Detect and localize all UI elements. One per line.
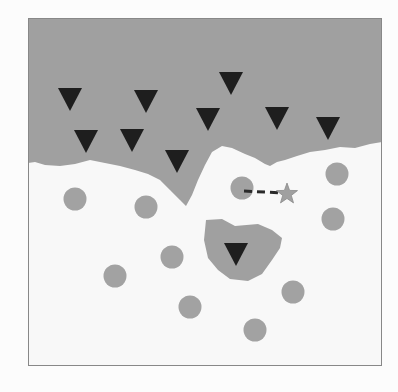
circle-marker	[282, 281, 305, 304]
circle-marker	[104, 265, 127, 288]
circle-marker	[135, 196, 158, 219]
decision-boundary-diagram	[0, 0, 398, 392]
circle-marker	[322, 208, 345, 231]
circle-marker	[244, 319, 267, 342]
circle-marker	[161, 246, 184, 269]
circle-marker	[64, 188, 87, 211]
circle-marker	[231, 177, 254, 200]
circle-marker	[326, 163, 349, 186]
circle-marker	[179, 296, 202, 319]
